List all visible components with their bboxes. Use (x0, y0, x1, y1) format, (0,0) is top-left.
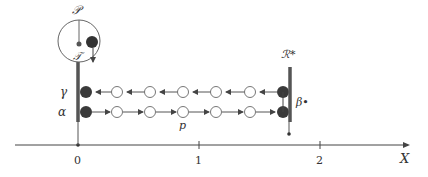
gamma-row (80, 86, 289, 98)
label-gamma: γ (60, 85, 68, 99)
diagram-canvas: 0 1 2 X 𝒫 𝒯 γ α (0, 0, 428, 177)
axis-arrow-icon (403, 142, 410, 148)
label-beta-star: β• (295, 96, 309, 109)
x-axis-label: X (399, 151, 410, 166)
label-p: p (179, 119, 186, 132)
label-P: 𝒫 (72, 3, 84, 17)
label-R-star: ℛ* (281, 48, 296, 61)
circle-P: 𝒫 𝒯 (58, 3, 100, 63)
tick-2: 2 (316, 154, 323, 167)
x-axis: 0 1 2 X (15, 141, 410, 167)
alpha-row: p (80, 106, 289, 132)
label-alpha: α (58, 105, 66, 119)
tick-1: 1 (195, 154, 202, 167)
tick-0: 0 (74, 154, 81, 167)
label-T: 𝒯 (73, 50, 85, 63)
